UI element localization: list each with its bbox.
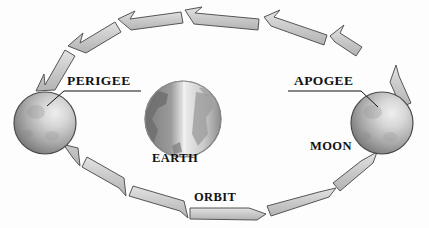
- orbit-arrow-bottom-6: [333, 152, 377, 191]
- orbit-arrow-bottom-3: [129, 186, 188, 218]
- orbit-label: ORBIT: [194, 191, 236, 204]
- orbit-arrow-bottom-5: [267, 188, 336, 216]
- apogee-label: APOGEE: [294, 74, 353, 88]
- perigee-label: PERIGEE: [67, 74, 131, 88]
- orbit-diagram: PERIGEE APOGEE MOON EARTH ORBIT: [0, 0, 429, 228]
- orbit-arrow-top-5: [68, 22, 121, 53]
- moon-perigee: [14, 92, 76, 154]
- orbit-arrow-top-3: [185, 7, 259, 30]
- orbit-arrow-bottom-4: [190, 208, 266, 220]
- orbit-arrow-top-4: [118, 11, 183, 30]
- earth-label: EARTH: [152, 152, 198, 165]
- moon-apogee: [351, 92, 413, 154]
- moon-label: MOON: [310, 140, 352, 153]
- orbit-arrow-top-2: [264, 10, 327, 45]
- earth-sphere: [145, 81, 221, 157]
- orbit-arrow-top-1: [330, 25, 362, 56]
- orbit-arrow-bottom-2: [82, 157, 126, 196]
